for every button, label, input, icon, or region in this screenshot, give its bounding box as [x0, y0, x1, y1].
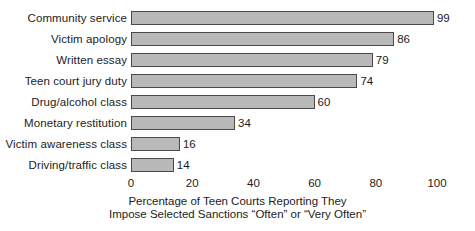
x-tick-label: 40 [247, 176, 260, 190]
bar [131, 53, 373, 67]
bar-value-label: 79 [373, 53, 389, 67]
bar [131, 137, 180, 151]
x-tick-label: 20 [186, 176, 199, 190]
bar-row: Victim awareness class16 [0, 136, 475, 157]
category-label: Victim awareness class [0, 136, 127, 152]
bar-value-label: 16 [180, 137, 196, 151]
x-axis: 020406080100 [0, 176, 475, 192]
bar-row: Community service99 [0, 10, 475, 31]
category-label: Driving/traffic class [0, 157, 127, 173]
axis-caption-line-2: Impose Selected Sanctions “Often” or “Ve… [0, 208, 475, 221]
x-tick-label: 80 [369, 176, 382, 190]
bar [131, 74, 357, 88]
bar [131, 158, 174, 172]
bar-row: Driving/traffic class14 [0, 157, 475, 178]
bar-value-label: 86 [394, 32, 410, 46]
bar-chart-figure: Community service99Victim apology86Writt… [0, 0, 475, 231]
category-label: Drug/alcohol class [0, 94, 127, 110]
x-tick-label: 100 [427, 176, 446, 190]
bar [131, 116, 235, 130]
bar-row: Written essay79 [0, 52, 475, 73]
x-tick-label: 60 [308, 176, 321, 190]
bar [131, 11, 434, 25]
bar-row: Monetary restitution34 [0, 115, 475, 136]
bar-row: Victim apology86 [0, 31, 475, 52]
x-tick-label: 0 [128, 176, 134, 190]
bar [131, 95, 315, 109]
bar-value-label: 60 [315, 95, 331, 109]
bar-row: Teen court jury duty74 [0, 73, 475, 94]
axis-caption-line-1: Percentage of Teen Courts Reporting They [0, 195, 475, 208]
bar-value-label: 14 [174, 158, 190, 172]
category-label: Victim apology [0, 31, 127, 47]
axis-caption: Percentage of Teen Courts Reporting They… [0, 195, 475, 221]
bar-value-label: 34 [235, 116, 251, 130]
bar-value-label: 99 [434, 11, 450, 25]
category-label: Teen court jury duty [0, 73, 127, 89]
bar [131, 32, 394, 46]
bar-value-label: 74 [357, 74, 373, 88]
category-label: Written essay [0, 52, 127, 68]
bar-row: Drug/alcohol class60 [0, 94, 475, 115]
category-label: Community service [0, 10, 127, 26]
category-label: Monetary restitution [0, 115, 127, 131]
plot-area: Community service99Victim apology86Writt… [0, 10, 475, 176]
